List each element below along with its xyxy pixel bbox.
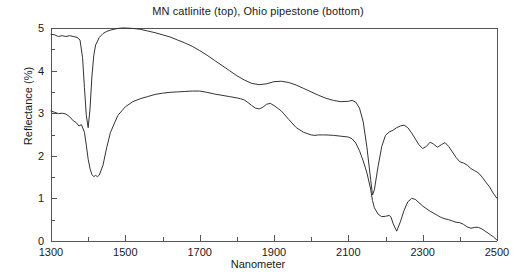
data-series-line bbox=[51, 91, 497, 240]
x-tick-label: 1300 bbox=[39, 246, 63, 258]
x-tick-label: 2500 bbox=[485, 246, 509, 258]
chart-figure: MN catlinite (top), Ohio pipestone (bott… bbox=[0, 0, 516, 278]
x-tick-label: 1900 bbox=[262, 246, 286, 258]
y-tick-label: 1 bbox=[38, 192, 44, 204]
y-tick-label: 0 bbox=[38, 235, 44, 247]
plot-area: 1300150017001900210023002500 012345 bbox=[0, 0, 516, 278]
x-axis-tick-labels: 1300150017001900210023002500 bbox=[39, 246, 509, 258]
x-tick-label: 1500 bbox=[113, 246, 137, 258]
y-tick-label: 4 bbox=[38, 65, 44, 77]
x-tick-label: 2100 bbox=[336, 246, 360, 258]
data-series-line bbox=[51, 28, 497, 198]
y-tick-label: 5 bbox=[38, 22, 44, 34]
data-series-group bbox=[51, 28, 497, 240]
y-tick-label: 2 bbox=[38, 150, 44, 162]
axis-frame bbox=[51, 28, 497, 241]
y-axis-tick-labels: 012345 bbox=[38, 22, 44, 247]
x-axis-major-ticks bbox=[52, 235, 498, 241]
x-tick-label: 1700 bbox=[187, 246, 211, 258]
y-axis-minor-ticks bbox=[51, 29, 55, 242]
y-tick-label: 3 bbox=[38, 107, 44, 119]
x-tick-label: 2300 bbox=[410, 246, 434, 258]
